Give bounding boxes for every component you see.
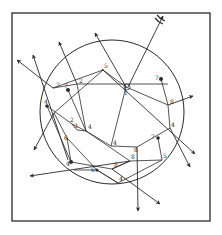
svg-text:8: 8 bbox=[134, 146, 138, 153]
svg-text:2: 2 bbox=[79, 77, 83, 84]
scatter-centers bbox=[45, 77, 163, 172]
svg-text:3: 3 bbox=[74, 122, 78, 129]
outgoing-arrows bbox=[17, 16, 195, 211]
feather-fletching bbox=[155, 15, 165, 24]
svg-text:7: 7 bbox=[56, 81, 60, 88]
svg-text:4: 4 bbox=[119, 175, 123, 182]
svg-text:6: 6 bbox=[91, 166, 95, 173]
svg-text:4: 4 bbox=[171, 121, 175, 128]
svg-text:1: 1 bbox=[124, 89, 128, 96]
svg-text:7: 7 bbox=[151, 133, 155, 140]
svg-text:5: 5 bbox=[163, 152, 167, 159]
svg-text:4: 4 bbox=[66, 160, 70, 167]
scattering-diagram: 7 7 2 5 1 7 8 4 2 3 4 6 4 8 4 7 4 6 8 8 … bbox=[0, 0, 222, 235]
svg-text:4: 4 bbox=[113, 139, 117, 146]
svg-text:6: 6 bbox=[64, 134, 68, 141]
svg-text:5: 5 bbox=[104, 62, 108, 69]
svg-text:7: 7 bbox=[155, 74, 159, 81]
svg-text:4: 4 bbox=[44, 98, 48, 105]
boundary-circle bbox=[40, 40, 184, 184]
svg-text:8: 8 bbox=[170, 98, 174, 105]
frame-border bbox=[12, 13, 210, 221]
svg-text:8: 8 bbox=[131, 153, 135, 160]
svg-text:4: 4 bbox=[88, 123, 92, 130]
svg-text:7: 7 bbox=[64, 82, 68, 89]
svg-text:8: 8 bbox=[114, 161, 118, 168]
